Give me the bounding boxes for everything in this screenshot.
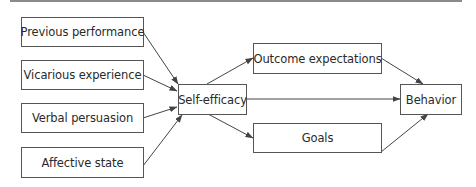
node-label: Affective state xyxy=(42,156,124,170)
node-label: Vicarious experience xyxy=(24,68,142,82)
arrow-affective-state-to-self-efficacy xyxy=(143,115,182,166)
arrow-self-efficacy-to-goals xyxy=(208,114,253,138)
arrow-goals-to-behavior xyxy=(381,114,428,152)
node-label: Previous performance xyxy=(21,25,145,39)
node-verbal-persuasion: Verbal persuasion xyxy=(21,103,144,133)
arrow-vicarious-experience-to-self-efficacy xyxy=(143,75,177,91)
arrow-previous-performance-to-self-efficacy xyxy=(143,32,178,84)
node-affective-state: Affective state xyxy=(21,147,144,178)
node-label: Verbal persuasion xyxy=(32,111,133,125)
node-self-efficacy: Self-efficacy xyxy=(178,84,247,115)
node-vicarious-experience: Vicarious experience xyxy=(21,60,144,90)
node-label: Behavior xyxy=(406,93,456,107)
node-label: Outcome expectations xyxy=(253,52,381,66)
node-outcome-expectations: Outcome expectations xyxy=(253,43,382,74)
node-label: Goals xyxy=(302,131,334,145)
arrow-self-efficacy-to-outcome-expectations xyxy=(207,58,253,84)
arrow-verbal-persuasion-to-self-efficacy xyxy=(143,107,177,118)
arrow-outcome-expectations-to-behavior xyxy=(381,58,423,84)
node-label: Self-efficacy xyxy=(178,93,247,107)
node-goals: Goals xyxy=(253,123,382,153)
node-previous-performance: Previous performance xyxy=(21,17,144,47)
node-behavior: Behavior xyxy=(400,84,462,115)
